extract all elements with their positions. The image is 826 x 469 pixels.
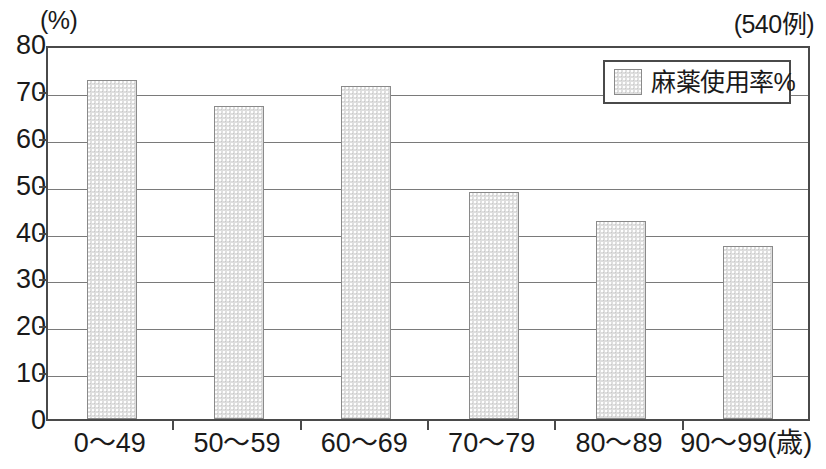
y-axis: 80706050403020100 bbox=[0, 46, 46, 421]
legend-label: 麻薬使用率% bbox=[651, 70, 795, 95]
x-axis-tick-label: 70～79 bbox=[448, 428, 535, 458]
bar bbox=[214, 106, 264, 419]
gridline bbox=[48, 189, 808, 190]
x-axis-tick-mark bbox=[554, 421, 556, 430]
gridline bbox=[48, 236, 808, 237]
x-axis-tick-mark bbox=[427, 421, 429, 430]
bar bbox=[341, 86, 391, 419]
x-axis-tick-label: 90～99(歳) bbox=[680, 428, 812, 458]
gridline bbox=[48, 142, 808, 143]
bar bbox=[723, 246, 773, 419]
x-axis-tick-label: 80～89 bbox=[575, 428, 662, 458]
legend-swatch-icon bbox=[614, 69, 642, 95]
bar bbox=[87, 80, 137, 419]
x-axis-tick-label: 60～69 bbox=[321, 428, 408, 458]
x-axis-tick-label: 0～49 bbox=[74, 428, 146, 458]
bar bbox=[596, 221, 646, 419]
bar bbox=[469, 192, 519, 419]
y-axis-tick-label: 0 bbox=[2, 407, 46, 434]
gridline bbox=[48, 282, 808, 283]
bar-chart: (%) (540例) 80706050403020100 麻薬使用率% 0～49… bbox=[0, 0, 826, 469]
x-axis-tick-mark bbox=[172, 421, 174, 430]
x-axis-tick-mark bbox=[300, 421, 302, 430]
sample-size-label: (540例) bbox=[734, 4, 814, 40]
gridline bbox=[48, 376, 808, 377]
x-axis-tick-label: 50～59 bbox=[193, 428, 280, 458]
gridline bbox=[48, 329, 808, 330]
y-axis-tick-label: 80 bbox=[2, 32, 46, 59]
legend: 麻薬使用率% bbox=[603, 60, 791, 104]
